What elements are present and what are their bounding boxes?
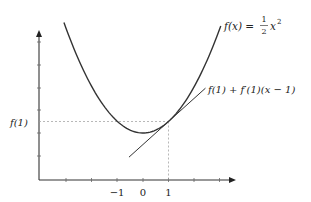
x-tick-label-minus1: −1 [110, 187, 125, 198]
curve-label-lhs: f(x) = [223, 20, 254, 32]
x-tick-label-1: 1 [165, 187, 171, 198]
curve-label-var: x [270, 20, 276, 32]
tangent-label: f(1) + f′(1)(x − 1) [207, 84, 295, 95]
axes [36, 30, 236, 183]
tangent-line-diagram: f(1) −1 0 1 f(x) = 1 2 x 2 f(1) + f′(1)(… [0, 0, 311, 202]
x-tick-label-0: 0 [140, 187, 146, 198]
y-label-f1: f(1) [9, 117, 28, 128]
x-axis-arrow-icon [229, 177, 236, 183]
curve-label-frac-num: 1 [261, 15, 266, 24]
guides [39, 122, 169, 181]
parabola-curve [64, 22, 221, 133]
curve-label-exp: 2 [277, 18, 281, 26]
y-axis-arrow-icon [36, 30, 42, 37]
curve-label-frac-den: 2 [261, 27, 266, 36]
tangent-line [129, 88, 206, 157]
curve-label: f(x) = 1 2 x 2 [223, 15, 281, 36]
